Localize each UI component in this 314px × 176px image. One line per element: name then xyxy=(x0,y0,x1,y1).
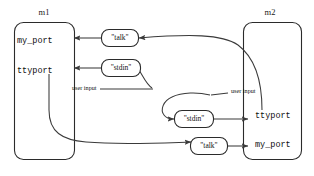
edge-label-user-input-right: user input xyxy=(231,87,256,94)
bubble-talk-top[interactable]: "talk" xyxy=(102,30,139,47)
port-m2-ttyport-label: ttyport xyxy=(255,111,291,121)
bubble-talk-top-label: "talk" xyxy=(111,33,128,42)
port-m1-my-port-label: my_port xyxy=(17,36,53,46)
bubble-talk-bottom-label: "talk" xyxy=(200,141,217,150)
bubble-talk-bottom[interactable]: "talk" xyxy=(191,138,228,155)
module-m1[interactable]: m1 my_port ttyport xyxy=(15,7,75,160)
bubble-stdin-top[interactable]: "stdin" xyxy=(102,60,141,77)
edge-label-user-input-left: user input xyxy=(72,84,97,91)
diagram-canvas: m1 my_port ttyport m2 ttyport my_port xyxy=(0,0,314,176)
bubble-stdin-top-label: "stdin" xyxy=(111,63,132,72)
port-m1-ttyport-label: ttyport xyxy=(17,66,53,76)
diagram-svg: m1 my_port ttyport m2 ttyport my_port xyxy=(0,0,314,176)
module-m1-title: m1 xyxy=(39,7,50,17)
module-m2-title: m2 xyxy=(265,7,276,17)
module-m2[interactable]: m2 ttyport my_port xyxy=(244,7,302,160)
edge-user-input-right-tail xyxy=(211,93,228,95)
port-m2-my-port-label: my_port xyxy=(255,140,291,150)
edge-m1-ttyport-to-talk-bottom xyxy=(49,74,191,144)
bubble-stdin-bottom[interactable]: "stdin" xyxy=(175,111,214,128)
bubble-stdin-bottom-label: "stdin" xyxy=(184,114,205,123)
